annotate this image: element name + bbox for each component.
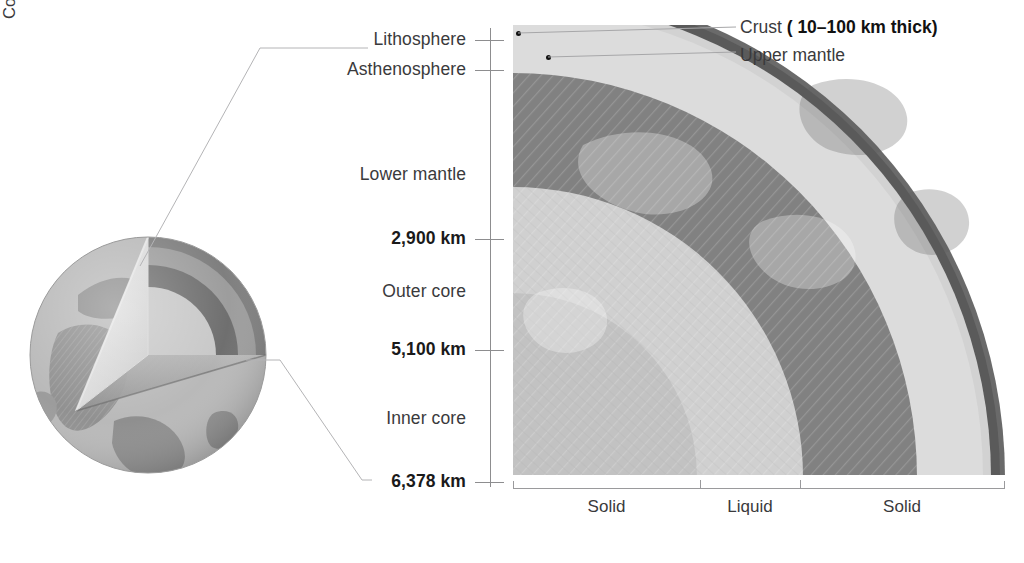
bracket-label-core: Core [0, 0, 19, 19]
state-axis-tick-3 [1004, 481, 1005, 489]
scale-label-lower-mantle: Lower mantle [300, 164, 466, 185]
bracket-spine [490, 28, 491, 487]
state-label-inner-core-state: Solid [513, 497, 700, 517]
state-axis-tick-1 [700, 480, 701, 489]
callout-upper-mantle: Upper mantle [740, 45, 845, 66]
scale-label-inner-core: Inner core [300, 408, 466, 429]
scale-label-depth-2900: 2,900 km [300, 228, 466, 249]
callout-crust-text: Crust [740, 17, 787, 37]
scale-label-outer-core: Outer core [300, 281, 466, 302]
upper-mantle-callout-leader [548, 50, 736, 66]
state-axis-tick-0 [513, 481, 514, 489]
callout-crust-emphasis: ( 10–100 km thick) [787, 17, 938, 37]
state-axis-tick-2 [800, 480, 801, 489]
earth-cross-section [513, 25, 1007, 477]
crust-callout-leader [518, 25, 736, 41]
state-label-mantle-state: Solid [800, 497, 1004, 517]
callout-upper-mantle-text: Upper mantle [740, 45, 845, 65]
scale-label-lithosphere: Lithosphere [300, 29, 466, 50]
scale-label-depth-5100: 5,100 km [300, 339, 466, 360]
state-axis-baseline [513, 488, 1004, 489]
scale-label-depth-6378: 6,378 km [300, 471, 466, 492]
scale-label-asthenosphere: Asthenosphere [300, 59, 466, 80]
callout-crust: Crust ( 10–100 km thick) [740, 17, 937, 38]
state-label-outer-core-state: Liquid [700, 497, 800, 517]
diagram-canvas: LithosphereAsthenosphereLower mantle2,90… [0, 0, 1024, 563]
